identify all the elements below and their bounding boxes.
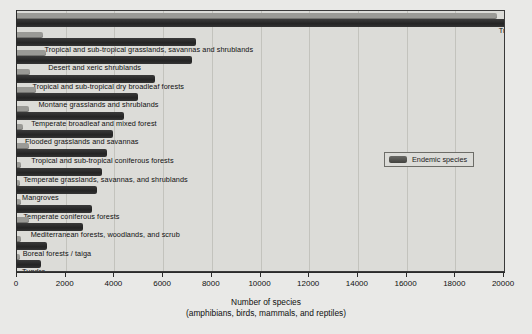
x-axis-tick [308, 272, 309, 277]
y-axis-line [16, 10, 17, 273]
bar-group: Montane grasslands and shrublands [17, 87, 504, 104]
x-axis-tick-label: 0 [14, 279, 18, 288]
x-axis-tick [406, 272, 407, 277]
legend-swatch-endemic-species [389, 156, 407, 163]
bar-group: Boreal forests / taiga [17, 236, 504, 253]
bar-group: Desert and xeric shrublands [17, 50, 504, 67]
x-axis-tick [65, 272, 66, 277]
chart-legend: Endemic species [384, 152, 474, 167]
x-axis-line [16, 272, 505, 273]
bar-endemic-species [17, 32, 43, 38]
x-axis-tick-label: 12000 [297, 279, 319, 288]
x-axis-title: Number of species (amphibians, birds, ma… [0, 297, 532, 318]
bar-group: Temperate coniferous forests [17, 199, 504, 216]
x-axis-tick-label: 18000 [443, 279, 465, 288]
bar-endemic-species [17, 236, 21, 242]
bar-endemic-species [17, 106, 29, 112]
x-axis-tick-label: 16000 [394, 279, 416, 288]
bar-group: Temperate broadleaf and mixed forest [17, 106, 504, 123]
bar-chart: Tropical and sub-tropical broadleaf fore… [0, 0, 532, 334]
x-axis-tick [16, 272, 17, 277]
x-axis-tick-label: 10000 [248, 279, 270, 288]
x-axis-tick [454, 272, 455, 277]
x-axis-tick [113, 272, 114, 277]
bar-endemic-species [17, 162, 21, 168]
bar-group: Tundra [17, 254, 504, 271]
x-axis-tick [503, 272, 504, 277]
bar-group: Mediterranean forests, woodlands, and sc… [17, 217, 504, 234]
x-axis-title-line-1: Number of species [0, 297, 532, 308]
bar-group: Flooded grasslands and savannas [17, 124, 504, 141]
x-axis-tick [162, 272, 163, 277]
bar-total-species [17, 19, 505, 27]
x-axis-tick [260, 272, 261, 277]
x-axis-tick-label: 20000 [492, 279, 514, 288]
x-axis-tick-label: 14000 [346, 279, 368, 288]
bar-group: Tropical and sub-tropical dry broadleaf … [17, 69, 504, 86]
x-axis-tick [357, 272, 358, 277]
plot-area: Tropical and sub-tropical broadleaf fore… [16, 10, 505, 272]
bar-group: Tropical and sub-tropical grasslands, sa… [17, 32, 504, 49]
legend-label-endemic-species: Endemic species [412, 155, 467, 164]
x-axis-title-line-2: (amphibians, birds, mammals, and reptile… [0, 308, 532, 319]
x-axis-tick [211, 272, 212, 277]
bar-endemic-species [17, 69, 30, 75]
x-axis-tick-label: 4000 [104, 279, 122, 288]
gridline [504, 11, 505, 271]
bar-group: Tropical and sub-tropical broadleaf fore… [17, 13, 504, 30]
x-axis-tick-label: 8000 [202, 279, 220, 288]
x-axis-tick-label: 2000 [56, 279, 74, 288]
x-axis-tick-label: 6000 [153, 279, 171, 288]
bar-endemic-species [17, 199, 21, 205]
bar-group: Mangroves [17, 180, 504, 197]
